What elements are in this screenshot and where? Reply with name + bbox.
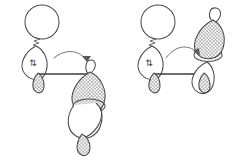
electron-pushing-arrowhead	[82, 56, 91, 62]
diagram-canvas: ⇅	[0, 0, 233, 160]
s-orbital-sphere	[25, 5, 59, 39]
acceptor-p-orbital-bottom-lobe	[68, 103, 102, 138]
orbital-diagram-svg: ⇅	[0, 0, 233, 160]
s-orbital-sphere	[141, 5, 175, 39]
right-resonance-structure: ⇅	[138, 5, 224, 93]
electron-pair-symbol: ⇅	[145, 58, 153, 68]
left-resonance-structure: ⇅	[22, 5, 105, 156]
acceptor-top-loop	[209, 8, 220, 22]
electron-pushing-arrow[interactable]	[54, 52, 87, 61]
electron-pair-symbol: ⇅	[29, 58, 37, 68]
